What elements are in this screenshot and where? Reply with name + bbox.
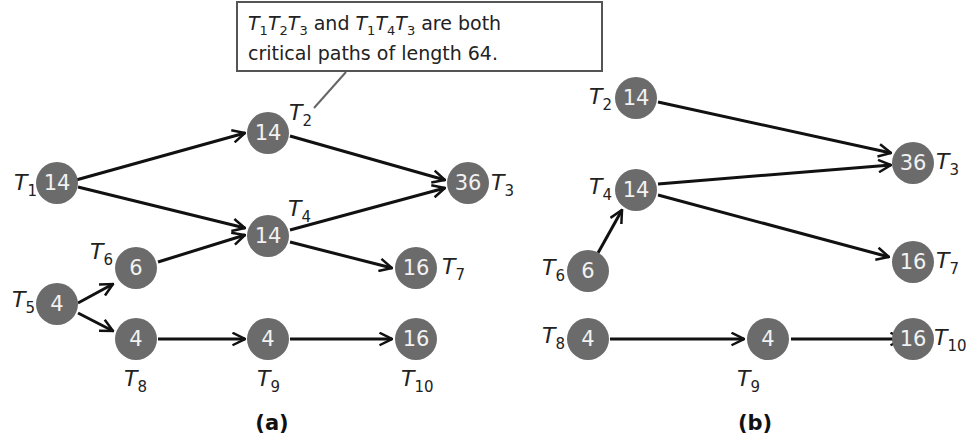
svg-text:T2: T2 [589, 84, 612, 114]
node-b-T10: 16 T10 [892, 318, 967, 360]
svg-text:36: 36 [900, 151, 927, 175]
svg-text:T7: T7 [442, 254, 465, 284]
critical-path-callout: T1T2T3 and T1T4T3 are both critical path… [237, 0, 602, 108]
node-a-T1: 14 T1 [14, 162, 78, 204]
svg-text:4: 4 [261, 327, 274, 351]
edge-a-T4-T7 [290, 242, 392, 268]
svg-text:T8: T8 [124, 366, 147, 396]
svg-text:36: 36 [455, 171, 482, 195]
svg-text:T3: T3 [491, 170, 514, 200]
node-b-T4: 14 T4 [589, 169, 657, 211]
node-a-T6: 6 T6 [90, 239, 157, 289]
node-b-T7: 16 T7 [892, 241, 959, 283]
svg-text:T2: T2 [289, 100, 312, 130]
node-a-T2: 14 T2 [247, 100, 312, 154]
diagram-b-edges [598, 102, 903, 339]
svg-text:T7: T7 [936, 248, 959, 278]
callout-line2: critical paths of length 64. [248, 42, 498, 64]
svg-text:T6: T6 [542, 255, 565, 285]
caption-b: (b) [738, 411, 772, 435]
svg-text:T4: T4 [288, 196, 311, 226]
svg-text:T10: T10 [401, 366, 434, 396]
edge-b-T6-T4 [598, 210, 622, 253]
edge-a-T1-T2 [76, 133, 245, 180]
node-a-T3: 36 T3 [447, 162, 514, 204]
edge-a-T4-T3 [290, 188, 445, 230]
svg-text:14: 14 [255, 121, 282, 145]
svg-text:16: 16 [403, 327, 430, 351]
node-a-T9: 4 T9 [247, 318, 289, 396]
edge-b-T4-T3 [658, 165, 891, 184]
edge-a-T1-T4 [78, 187, 245, 228]
node-b-T6: 6 T6 [542, 250, 609, 292]
svg-text:T5: T5 [12, 287, 35, 317]
diagram-a-nodes: 14 T1 14 T2 36 T3 14 T4 4 T5 6 T6 [12, 100, 514, 396]
svg-text:16: 16 [900, 327, 927, 351]
callout-pointer [314, 72, 346, 108]
edge-a-T5-T6 [78, 284, 113, 303]
svg-text:T10: T10 [934, 325, 967, 355]
node-b-T2: 14 T2 [589, 77, 657, 119]
svg-text:T3: T3 [936, 149, 959, 179]
svg-text:6: 6 [581, 259, 594, 283]
node-b-T3: 36 T3 [892, 142, 959, 184]
node-a-T7: 16 T7 [395, 247, 465, 289]
edge-b-T2-T3 [658, 102, 891, 153]
svg-text:14: 14 [623, 86, 650, 110]
edge-b-T4-T7 [658, 195, 889, 257]
svg-text:16: 16 [900, 250, 927, 274]
node-b-T9: 4 T9 [737, 318, 789, 396]
edge-a-T6-T4 [158, 235, 245, 262]
caption-a: (a) [255, 411, 288, 435]
svg-text:4: 4 [50, 292, 63, 316]
svg-text:T1: T1 [14, 170, 37, 200]
svg-text:14: 14 [44, 171, 71, 195]
svg-text:T8: T8 [542, 323, 565, 353]
svg-text:14: 14 [255, 224, 282, 248]
svg-text:14: 14 [623, 178, 650, 202]
svg-text:T6: T6 [90, 239, 113, 269]
svg-text:T4: T4 [589, 174, 612, 204]
svg-text:16: 16 [403, 256, 430, 280]
node-a-T5: 4 T5 [12, 283, 78, 325]
svg-text:6: 6 [129, 256, 142, 280]
node-a-T8: 4 T8 [115, 318, 157, 396]
node-a-T10: 16 T10 [395, 318, 437, 396]
edge-a-T5-T8 [78, 313, 113, 331]
svg-text:T9: T9 [257, 366, 280, 396]
svg-text:T9: T9 [737, 366, 760, 396]
svg-text:4: 4 [581, 327, 594, 351]
task-graph-figure: T1T2T3 and T1T4T3 are both critical path… [0, 0, 968, 448]
node-b-T8: 4 T8 [542, 318, 609, 360]
svg-text:4: 4 [761, 327, 774, 351]
svg-text:4: 4 [129, 327, 142, 351]
edge-a-T2-T3 [290, 136, 445, 180]
